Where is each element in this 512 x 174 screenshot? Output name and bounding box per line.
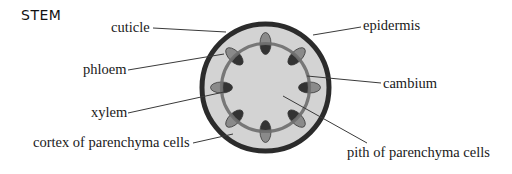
label-cambium: cambium bbox=[383, 75, 438, 91]
label-cortex: cortex of parenchyma cells bbox=[33, 134, 190, 150]
stem-cross-section bbox=[202, 24, 329, 151]
label-epidermis: epidermis bbox=[363, 17, 421, 33]
label-pith: pith of parenchyma cells bbox=[347, 144, 490, 160]
label-xylem: xylem bbox=[91, 104, 128, 120]
cuticle-leader bbox=[153, 28, 226, 32]
label-cuticle: cuticle bbox=[111, 19, 150, 35]
diagram-title: STEM bbox=[21, 7, 61, 23]
stem-diagram: STEM bbox=[0, 0, 512, 174]
label-phloem: phloem bbox=[83, 61, 127, 77]
epidermis-leader bbox=[313, 27, 361, 35]
